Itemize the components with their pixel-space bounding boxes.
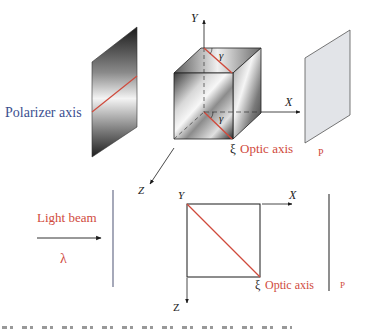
optics-figure: Polarizer axis Y X Z γ γ ξ Optic axis P … <box>0 0 366 329</box>
polarizer-plate <box>92 27 137 157</box>
xi-symbol-top: ξ <box>230 142 236 155</box>
z-axis-label-top: Z <box>138 185 144 196</box>
x-axis-label-top: X <box>285 96 292 108</box>
y-axis-label-top: Y <box>191 12 198 24</box>
z-axis-top <box>150 148 174 184</box>
light-beam-label: Light beam <box>37 211 97 224</box>
wavelength-label: λ <box>60 252 67 266</box>
x-axis-label-bottom: X <box>289 189 296 201</box>
y-axis-label-bottom: Y <box>178 190 184 201</box>
analyzer-plate <box>305 30 350 143</box>
optic-axis-label-top: Optic axis <box>240 142 293 155</box>
clipped-caption <box>2 322 292 329</box>
gamma-bottom-label: γ <box>219 113 223 124</box>
gamma-top-label: γ <box>219 50 223 61</box>
analyzer-label-bottom: P <box>340 281 345 290</box>
analyzer-label-top: P <box>318 148 324 158</box>
optic-axis-label-bottom: Optic axis <box>265 279 314 291</box>
z-axis-label-bottom: Z <box>173 302 180 313</box>
crystal-cube <box>174 48 261 139</box>
xi-symbol-bottom: ξ <box>255 279 260 291</box>
polarizer-axis-label: Polarizer axis <box>5 106 82 120</box>
